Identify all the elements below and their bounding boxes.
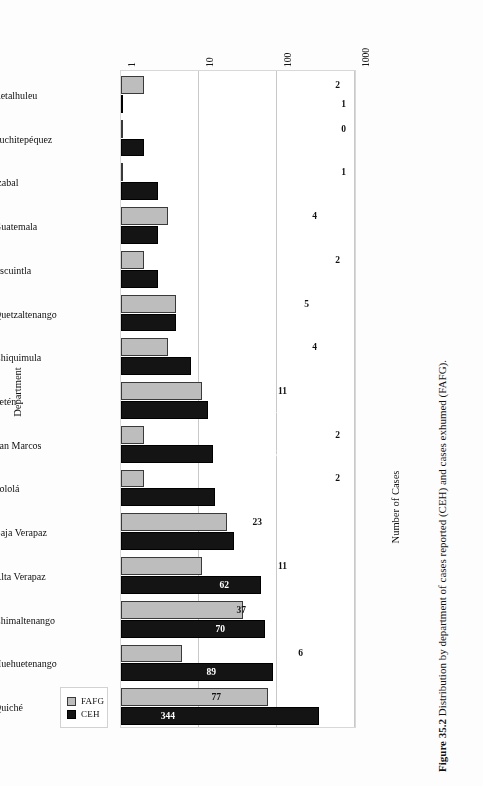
- bar-group: 152: [121, 421, 355, 465]
- bar-ceh: [121, 182, 158, 200]
- bar-group: 84: [121, 333, 355, 377]
- bar-value-label: 5: [304, 295, 309, 313]
- bar-fafg: [121, 120, 123, 138]
- bar-group: 162: [121, 465, 355, 509]
- bar-fafg: [121, 557, 202, 575]
- bar-fafg: [121, 76, 144, 94]
- bar-ceh: [121, 139, 144, 157]
- bar-ceh: [121, 95, 123, 113]
- bar-ceh: [121, 576, 261, 594]
- bar-value-label: 2: [336, 426, 341, 444]
- bar-value-label: 89: [207, 663, 217, 681]
- bar-value-label: 1: [341, 163, 346, 181]
- bar-ceh: [121, 488, 215, 506]
- figure-caption-text: Distribution by department of cases repo…: [436, 360, 448, 716]
- bar-group: 1311: [121, 377, 355, 421]
- bar-value-label: 3: [322, 270, 327, 288]
- category-label: Alta Verapaz: [0, 571, 114, 582]
- bar-value-label: 70: [215, 620, 225, 638]
- category-label: San Marcos: [0, 440, 114, 451]
- bar-ceh: [121, 445, 213, 463]
- chart-card: Distribution of Cases by Department Numb…: [30, 42, 386, 742]
- axis-tick-label: 1: [127, 62, 137, 67]
- bar-group: 6211: [121, 552, 355, 596]
- bar-ceh: [121, 357, 191, 375]
- category-label: Quetzaltenango: [0, 309, 114, 320]
- figure-page: Distribution of Cases by Department Numb…: [0, 0, 483, 786]
- bar-group: 2823: [121, 508, 355, 552]
- category-label: Baja Verapaz: [0, 527, 114, 538]
- category-label: Huehuetenango: [0, 658, 114, 669]
- bar-group: 34: [121, 202, 355, 246]
- bar-value-label: 8: [289, 357, 294, 375]
- bar-value-label: 3: [322, 226, 327, 244]
- bar-ceh: [121, 226, 158, 244]
- bar-value-label: 5: [304, 314, 309, 332]
- bar-value-label: 6: [298, 645, 303, 663]
- bar-group: 7037: [121, 596, 355, 640]
- bar-ceh: [121, 270, 158, 288]
- bar-fafg: [121, 513, 227, 531]
- bar-fafg: [121, 601, 243, 619]
- bar-fafg: [121, 207, 168, 225]
- figure-caption: Figure 35.2 Distribution by department o…: [436, 342, 454, 772]
- bar-value-label: 77: [212, 688, 222, 706]
- bar-ceh: [121, 707, 319, 725]
- bar-value-label: 344: [161, 707, 175, 725]
- category-label: Chimaltenango: [0, 615, 114, 626]
- bar-ceh: [121, 663, 273, 681]
- bar-value-label: 2: [336, 251, 341, 269]
- bar-value-label: 11: [278, 382, 287, 400]
- bar-value-label: 0: [341, 120, 346, 138]
- bar-fafg: [121, 338, 168, 356]
- category-label: Guatemala: [0, 221, 114, 232]
- axis-tick-label: 10: [205, 58, 215, 68]
- bar-group: 12: [121, 71, 355, 115]
- bar-value-label: 2: [336, 76, 341, 94]
- figure-caption-label: Figure 35.2: [436, 719, 448, 772]
- bar-fafg: [121, 470, 144, 488]
- bar-fafg: [121, 688, 268, 706]
- chart-title: Distribution of Cases by Department: [24, 742, 40, 786]
- bar-value-label: 13: [272, 401, 282, 419]
- bar-value-label: 3: [322, 182, 327, 200]
- category-label: Suchitepéquez: [0, 134, 114, 145]
- bar-value-label: 4: [312, 207, 317, 225]
- y-axis-title: Number of Cases: [390, 272, 406, 742]
- category-label: Escuintla: [0, 265, 114, 276]
- bar-ceh: [121, 620, 265, 638]
- category-label: Petén: [0, 396, 114, 407]
- bar-value-label: 4: [312, 338, 317, 356]
- bar-group: 896: [121, 640, 355, 684]
- bar-fafg: [121, 426, 144, 444]
- bar-value-label: 2: [336, 139, 341, 157]
- axis-tick-label: 100: [283, 53, 293, 67]
- bar-value-label: 28: [246, 532, 256, 550]
- bar-fafg: [121, 295, 176, 313]
- axis-tick-label: 1000: [361, 48, 371, 67]
- bar-group: 32: [121, 246, 355, 290]
- bar-fafg: [121, 163, 123, 181]
- bar-value-label: 37: [237, 601, 247, 619]
- category-label: Quiché: [0, 702, 114, 713]
- category-label: Sololá: [0, 483, 114, 494]
- bar-ceh: [121, 314, 176, 332]
- bar-fafg: [121, 645, 182, 663]
- bar-value-label: 62: [219, 576, 229, 594]
- bar-ceh: [121, 401, 208, 419]
- bar-fafg: [121, 382, 202, 400]
- plot-area: 3447789670376211282316215213118455323431…: [120, 70, 356, 728]
- bar-value-label: 11: [278, 557, 287, 575]
- bar-group: 55: [121, 290, 355, 334]
- category-label: Chiquimula: [0, 352, 114, 363]
- bar-fafg: [121, 251, 144, 269]
- category-label: Izabal: [0, 177, 114, 188]
- bar-value-label: 16: [265, 488, 275, 506]
- bar-group: 20: [121, 115, 355, 159]
- bar-value-label: 23: [253, 513, 263, 531]
- bar-ceh: [121, 532, 234, 550]
- bar-value-label: 2: [336, 470, 341, 488]
- bar-value-label: 15: [267, 445, 277, 463]
- category-label: Retalhuleu: [0, 90, 114, 101]
- figure-body-rotated: Distribution of Cases by Department Numb…: [0, 0, 420, 786]
